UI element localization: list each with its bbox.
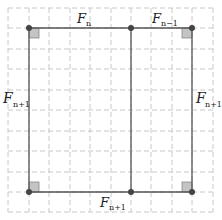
label-right: F n+1 xyxy=(195,90,222,109)
svg-text:n: n xyxy=(86,19,91,28)
fibonacci-diagram: F n F n−1 F n+1 F n+1 F n+1 xyxy=(0,0,222,220)
svg-text:n+1: n+1 xyxy=(109,203,126,212)
label-top-right: F n−1 xyxy=(151,11,178,28)
svg-text:n−1: n−1 xyxy=(161,19,178,28)
label-left: F n+1 xyxy=(2,90,30,109)
dashed-grid xyxy=(8,8,213,212)
label-top-left: F n xyxy=(76,11,91,28)
svg-text:n+1: n+1 xyxy=(205,100,222,109)
label-bottom: F n+1 xyxy=(99,195,126,212)
svg-text:n+1: n+1 xyxy=(13,100,30,109)
